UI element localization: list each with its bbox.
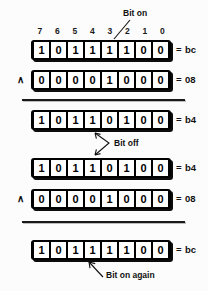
bit-label-2: 2 (119, 25, 137, 38)
bit-cell: 1 (34, 160, 49, 176)
equals-sign: = (176, 72, 185, 88)
bit-cell: 0 (119, 191, 134, 207)
bit-cell: 0 (119, 72, 134, 88)
hex-value: 08 (185, 193, 196, 204)
row-value-b4-upper: 1 0 1 1 0 1 0 0 =b4 (0, 110, 208, 132)
byte-box: 1 0 1 1 0 1 0 0 (31, 158, 171, 178)
hex-value: b4 (185, 162, 196, 173)
bit-cell: 1 (85, 160, 100, 176)
bit-label-4: 4 (84, 25, 102, 38)
bit-cell: 0 (51, 160, 66, 176)
bit-cell: 0 (102, 112, 117, 128)
hex-value: 08 (185, 74, 196, 85)
row-result: =b4 (176, 112, 196, 128)
annotation-bit-on: Bit on (123, 8, 147, 19)
annotation-bit-off: Bit off (114, 138, 139, 149)
equals-sign: = (176, 112, 185, 128)
bit-cell: 1 (34, 42, 49, 58)
row-result: =08 (176, 72, 196, 88)
row-value-bc-top: 1 0 1 1 1 1 0 0 =bc (0, 40, 208, 62)
hex-value: b4 (185, 114, 196, 125)
divider-rule (22, 221, 185, 223)
bit-cell: 1 (102, 72, 117, 88)
bit-cell: 1 (85, 242, 100, 258)
bit-cell: 0 (34, 191, 49, 207)
row-result: =08 (176, 191, 196, 207)
and-operator: ∧ (14, 73, 26, 87)
bit-label-7: 7 (31, 25, 49, 38)
equals-sign: = (176, 42, 185, 58)
byte-box: 1 0 1 1 1 1 0 0 (31, 40, 171, 60)
bit-cell: 0 (51, 191, 66, 207)
row-mask-08-bottom: ∧ 0 0 0 0 1 0 0 0 =08 (0, 189, 208, 211)
bit-cell: 1 (68, 242, 83, 258)
bit-cell: 1 (34, 242, 49, 258)
row-result: =b4 (176, 160, 196, 176)
bit-cell: 1 (34, 112, 49, 128)
bit-cell: 0 (68, 191, 83, 207)
bit-cell: 0 (136, 42, 151, 58)
annotation-bit-on-again: Bit on again (106, 270, 155, 281)
bit-label-0: 0 (154, 25, 172, 38)
bit-cell: 0 (136, 160, 151, 176)
bit-cell: 0 (102, 160, 117, 176)
bit-cell: 0 (51, 42, 66, 58)
bit-cell: 0 (34, 72, 49, 88)
hex-value: bc (185, 244, 196, 255)
bit-cell: 0 (153, 242, 168, 258)
bit-cell: 1 (102, 191, 117, 207)
divider-rule (22, 99, 185, 101)
bit-cell: 1 (102, 42, 117, 58)
bit-cell: 0 (153, 191, 168, 207)
bit-label-5: 5 (66, 25, 84, 38)
byte-box: 1 0 1 1 1 1 0 0 (31, 240, 171, 260)
bit-cell: 1 (68, 42, 83, 58)
bit-cell: 1 (119, 242, 134, 258)
bit-cell: 0 (153, 112, 168, 128)
bit-label-1: 1 (136, 25, 154, 38)
bit-cell: 1 (119, 42, 134, 58)
bit-cell: 0 (85, 191, 100, 207)
row-result: =bc (176, 42, 196, 58)
bit-index-labels: 7 6 5 4 3 2 1 0 (31, 25, 171, 38)
row-mask-08-top: ∧ 0 0 0 0 1 0 0 0 =08 (0, 70, 208, 92)
bit-label-6: 6 (49, 25, 67, 38)
bit-cell: 0 (136, 191, 151, 207)
bit-cell: 0 (51, 242, 66, 258)
bit-cell: 1 (85, 42, 100, 58)
bit-cell: 0 (153, 72, 168, 88)
bit-cell: 1 (119, 112, 134, 128)
byte-box: 1 0 1 1 0 1 0 0 (31, 110, 171, 130)
bit-cell: 1 (68, 160, 83, 176)
byte-box: 0 0 0 0 1 0 0 0 (31, 189, 171, 209)
bit-on-again-leader-line (86, 261, 108, 279)
row-result: =bc (176, 242, 196, 258)
row-value-bc-bottom: 1 0 1 1 1 1 0 0 =bc (0, 240, 208, 262)
bit-cell: 1 (85, 112, 100, 128)
bit-cell: 1 (119, 160, 134, 176)
byte-box: 0 0 0 0 1 0 0 0 (31, 70, 171, 90)
bit-cell: 0 (51, 112, 66, 128)
bit-cell: 0 (136, 242, 151, 258)
bit-cell: 0 (68, 72, 83, 88)
equals-sign: = (176, 160, 185, 176)
equals-sign: = (176, 191, 185, 207)
bit-cell: 1 (102, 242, 117, 258)
bit-cell: 0 (51, 72, 66, 88)
hex-value: bc (185, 44, 196, 55)
and-operator: ∧ (14, 192, 26, 206)
bit-cell: 0 (153, 42, 168, 58)
bit-cell: 0 (153, 160, 168, 176)
bit-cell: 1 (68, 112, 83, 128)
bit-label-3: 3 (101, 25, 119, 38)
bit-cell: 0 (85, 72, 100, 88)
equals-sign: = (176, 242, 185, 258)
bit-masking-diagram: Bit on 7 6 5 4 3 2 1 0 1 0 1 1 1 1 0 0 =… (0, 0, 208, 291)
row-value-b4-lower: 1 0 1 1 0 1 0 0 =b4 (0, 158, 208, 180)
bit-cell: 0 (136, 112, 151, 128)
bit-cell: 0 (136, 72, 151, 88)
